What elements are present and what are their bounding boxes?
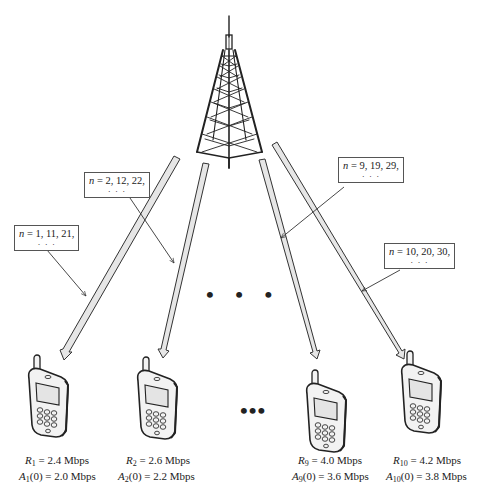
slot-values: = 1, 11, 21, bbox=[24, 228, 74, 239]
tower-icon bbox=[197, 16, 262, 168]
slot-ellipsis: · · · bbox=[19, 240, 74, 249]
rate-info-user1: R1 = 2.4 Mbps A1(0) = 2.0 Mbps bbox=[19, 452, 96, 484]
slot-label-user9: n = 9, 19, 29, · · · bbox=[338, 157, 404, 183]
phone-icon-user10 bbox=[402, 351, 441, 433]
slot-ellipsis: · · · bbox=[89, 187, 145, 196]
rate-line: R9 = 4.0 Mbps bbox=[292, 452, 369, 468]
slot-label-user2: n = 2, 12, 22, · · · bbox=[84, 172, 150, 198]
rate-line: R1 = 2.4 Mbps bbox=[19, 452, 96, 468]
ellipsis-middle: • • • bbox=[206, 290, 280, 300]
rate-info-user2: R2 = 2.6 Mbps A2(0) = 2.2 Mbps bbox=[118, 452, 195, 484]
avg-throughput-line: A1(0) = 2.0 Mbps bbox=[19, 468, 96, 484]
phone-icon-user9 bbox=[307, 370, 346, 452]
rate-line: R2 = 2.6 Mbps bbox=[118, 452, 195, 468]
avg-throughput-line: A10(0) = 3.8 Mbps bbox=[386, 468, 467, 484]
avg-throughput-line: A2(0) = 2.2 Mbps bbox=[118, 468, 195, 484]
ellipsis-bottom: ••• bbox=[240, 406, 266, 416]
slot-label-user1: n = 1, 11, 21, · · · bbox=[14, 225, 79, 251]
slot-ellipsis: · · · bbox=[389, 258, 450, 267]
leader-lines bbox=[47, 187, 400, 296]
phone-icon-user1 bbox=[29, 355, 68, 437]
slot-values: = 2, 12, 22, bbox=[94, 175, 145, 186]
beam-arrow-user9 bbox=[259, 159, 320, 359]
slot-label-user10: n = 10, 20, 30, · · · bbox=[384, 243, 455, 269]
phone-icon-user2 bbox=[138, 357, 177, 439]
avg-throughput-line: A9(0) = 3.6 Mbps bbox=[292, 468, 369, 484]
slot-ellipsis: · · · bbox=[343, 172, 399, 181]
slot-values: = 9, 19, 29, bbox=[348, 160, 399, 171]
beam-arrow-user2 bbox=[158, 163, 209, 358]
rate-info-user10: R10 = 4.2 Mbps A10(0) = 3.8 Mbps bbox=[386, 452, 467, 484]
rate-info-user9: R9 = 4.0 Mbps A9(0) = 3.6 Mbps bbox=[292, 452, 369, 484]
slot-values: = 10, 20, 30, bbox=[394, 246, 450, 257]
rate-line: R10 = 4.2 Mbps bbox=[386, 452, 467, 468]
